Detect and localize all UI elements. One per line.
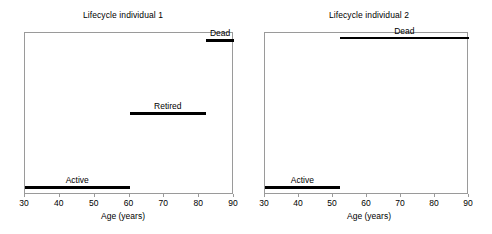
panel-title: Lifecycle individual 2 xyxy=(246,10,492,20)
x-axis-tick xyxy=(233,194,234,197)
x-axis-tick xyxy=(298,194,299,197)
x-axis-tick xyxy=(366,194,367,197)
lifecycle-segment-bar xyxy=(265,186,340,189)
x-axis-tick xyxy=(59,194,60,197)
x-axis-tick-label: 70 xyxy=(395,198,404,208)
x-axis-tick-label: 30 xyxy=(259,198,268,208)
x-axis-tick-label: 70 xyxy=(159,198,168,208)
x-axis-tick xyxy=(94,194,95,197)
x-axis-tick-label: 60 xyxy=(361,198,370,208)
x-axis-tick-label: 60 xyxy=(124,198,133,208)
lifecycle-segment-label: Active xyxy=(291,175,314,185)
x-axis-tick-label: 90 xyxy=(463,198,472,208)
lifecycle-segment-bar xyxy=(25,186,130,189)
x-axis-tick-label: 50 xyxy=(327,198,336,208)
x-axis-tick-label: 90 xyxy=(228,198,237,208)
x-axis-tick xyxy=(129,194,130,197)
x-axis-tick-label: 50 xyxy=(89,198,98,208)
x-axis-tick xyxy=(332,194,333,197)
x-axis-tick-label: 80 xyxy=(193,198,202,208)
x-axis-tick xyxy=(198,194,199,197)
lifecycle-segment-bar xyxy=(130,112,207,115)
x-axis-tick-label: 40 xyxy=(293,198,302,208)
plot-frame: DeadActive xyxy=(264,32,468,194)
panel-lifecycle-individual-2: Lifecycle individual 2 DeadActive 304050… xyxy=(246,0,492,234)
x-axis-label: Age (years) xyxy=(246,211,492,221)
lifecycle-segment-label: Dead xyxy=(394,26,414,36)
lifecycle-figure: Lifecycle individual 1 DeadRetiredActive… xyxy=(0,0,492,234)
plot-area: DeadRetiredActive xyxy=(25,33,232,193)
lifecycle-segment-bar xyxy=(206,39,234,42)
plot-frame: DeadRetiredActive xyxy=(24,32,233,194)
x-axis-tick xyxy=(434,194,435,197)
plot-area: DeadActive xyxy=(265,33,467,193)
lifecycle-segment-bar xyxy=(340,37,469,40)
x-axis-tick xyxy=(400,194,401,197)
x-axis-tick xyxy=(163,194,164,197)
lifecycle-segment-label: Active xyxy=(66,175,89,185)
x-axis-tick xyxy=(468,194,469,197)
x-axis-tick-label: 40 xyxy=(54,198,63,208)
x-axis-tick-label: 30 xyxy=(19,198,28,208)
x-axis-tick-label: 80 xyxy=(429,198,438,208)
panel-title: Lifecycle individual 1 xyxy=(0,10,246,20)
panel-lifecycle-individual-1: Lifecycle individual 1 DeadRetiredActive… xyxy=(0,0,246,234)
lifecycle-segment-label: Dead xyxy=(210,28,230,38)
x-axis-tick xyxy=(264,194,265,197)
x-axis-label: Age (years) xyxy=(0,211,246,221)
lifecycle-segment-label: Retired xyxy=(154,101,181,111)
x-axis-tick xyxy=(24,194,25,197)
